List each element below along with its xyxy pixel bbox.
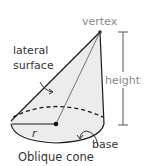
- lateral-surface-label-line2: surface: [13, 60, 54, 72]
- vertex-label: vertex: [82, 16, 117, 28]
- vertex-point: [98, 30, 102, 34]
- figure-caption: Oblique cone: [18, 151, 94, 163]
- base-label: base: [92, 139, 118, 151]
- radius-label: r: [32, 128, 37, 140]
- base-center-point: [54, 122, 59, 127]
- height-label: height: [105, 75, 140, 87]
- lateral-surface-label-line1: lateral: [13, 45, 48, 57]
